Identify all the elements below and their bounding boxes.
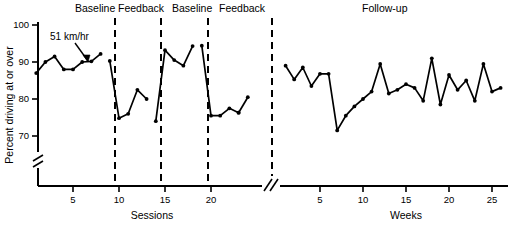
phase-dividers <box>115 18 272 182</box>
x-axis-title-weeks: Weeks <box>390 209 422 221</box>
x-tick-label-w25: 25 <box>487 194 498 205</box>
x-tick-label-w5: 5 <box>317 194 322 205</box>
data-point <box>378 62 382 66</box>
data-point <box>284 64 288 68</box>
x-tick-label-s10: 10 <box>114 194 125 205</box>
series-line-weeks-0 <box>286 58 501 130</box>
data-point <box>237 111 241 115</box>
annotation-label: 51 km/hr <box>50 31 90 42</box>
data-point <box>456 88 460 92</box>
data-point <box>99 52 103 56</box>
data-point <box>53 55 57 59</box>
data-point <box>200 44 204 48</box>
x-tick-label-s5: 5 <box>70 194 75 205</box>
data-point <box>370 90 374 94</box>
data-point <box>447 73 451 77</box>
data-point <box>117 116 121 120</box>
x-tick-label-s15: 15 <box>160 194 171 205</box>
data-point <box>335 129 339 133</box>
y-tick-label-80: 80 <box>18 93 29 104</box>
data-point <box>80 60 84 64</box>
x-tick-label-w20: 20 <box>444 194 455 205</box>
data-point <box>344 114 348 118</box>
data-point <box>108 59 112 63</box>
phase-label-feedback-1: Feedback <box>118 2 165 14</box>
y-axis-break-upper <box>33 155 43 161</box>
data-point <box>387 92 391 96</box>
x-tick-label-s20: 20 <box>206 194 217 205</box>
data-point <box>209 114 213 118</box>
data-point <box>482 62 486 66</box>
y-axis-break-lower <box>33 161 43 167</box>
data-point <box>172 58 176 62</box>
x-tick-label-w15: 15 <box>401 194 412 205</box>
data-point <box>421 99 425 103</box>
data-point <box>439 103 443 107</box>
y-tick-label-70: 70 <box>18 130 29 141</box>
series-line-sessions-4 <box>239 97 248 113</box>
data-point <box>361 97 365 101</box>
data-point <box>62 68 66 72</box>
data-point <box>396 88 400 92</box>
data-point <box>44 60 48 64</box>
chart-figure: Baseline Feedback Baseline Feedback Foll… <box>0 0 513 226</box>
data-point <box>464 79 468 83</box>
data-point <box>292 78 296 82</box>
x-axis-title-sessions: Sessions <box>131 209 174 221</box>
data-point <box>218 114 222 118</box>
data-point <box>163 48 167 52</box>
data-point <box>430 56 434 60</box>
data-point <box>327 72 331 76</box>
data-point <box>71 68 75 72</box>
data-point <box>301 66 305 70</box>
data-point <box>246 95 250 99</box>
data-point <box>34 71 38 75</box>
data-point <box>228 106 232 110</box>
data-point <box>353 105 357 109</box>
data-series-layer <box>34 44 502 133</box>
data-point <box>404 82 408 86</box>
x-tick-label-w10: 10 <box>358 194 369 205</box>
data-point <box>310 84 314 88</box>
phase-label-feedback-2: Feedback <box>219 2 266 14</box>
y-tick-label-100: 100 <box>13 19 29 30</box>
data-point <box>182 64 186 68</box>
data-point <box>136 88 140 92</box>
data-point <box>191 44 195 48</box>
data-point <box>90 59 94 63</box>
data-point <box>490 90 494 94</box>
data-point <box>154 119 158 123</box>
phase-label-baseline-1: Baseline <box>75 2 115 14</box>
data-point <box>499 86 503 90</box>
data-point <box>473 99 477 103</box>
data-point <box>413 86 417 90</box>
data-point <box>145 97 149 101</box>
driving-speed-line-chart: Baseline Feedback Baseline Feedback Foll… <box>0 0 513 226</box>
phase-label-baseline-2: Baseline <box>172 2 212 14</box>
y-tick-label-90: 90 <box>18 56 29 67</box>
phase-label-follow-up: Follow-up <box>362 2 408 14</box>
data-point <box>126 112 130 116</box>
y-axis-title: Percent driving at or over <box>3 46 15 164</box>
data-point <box>318 72 322 76</box>
